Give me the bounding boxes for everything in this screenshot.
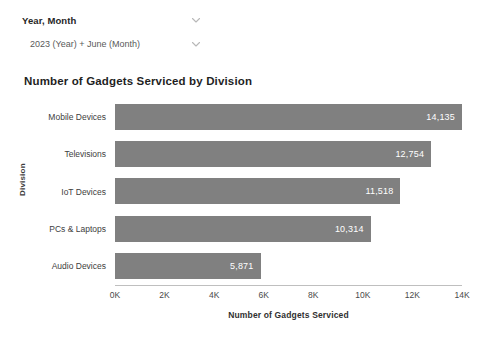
- x-axis-line: [115, 285, 462, 286]
- x-axis-tick-label: 14K: [454, 290, 469, 300]
- bar-row: 10,314: [115, 210, 462, 247]
- bar-series: 14,13512,75411,51810,3145,871: [115, 98, 462, 285]
- x-axis-tick-label: 8K: [308, 290, 318, 300]
- filter-panel: Year, Month 2023 (Year) + June (Month): [22, 8, 202, 56]
- y-axis-category-label: IoT Devices: [30, 173, 112, 210]
- filter-selected-period-value: 2023 (Year) + June (Month): [30, 39, 140, 49]
- y-axis-category-label: Audio Devices: [30, 248, 112, 285]
- y-axis-category-labels: Mobile DevicesTelevisionsIoT DevicesPCs …: [30, 98, 112, 285]
- chart-title: Number of Gadgets Serviced by Division: [24, 75, 252, 87]
- x-axis-title: Number of Gadgets Serviced: [115, 310, 462, 320]
- bar-row: 12,754: [115, 135, 462, 172]
- x-axis-tick-labels: 0K2K4K6K8K10K12K14K: [115, 290, 462, 304]
- bar-value-label: 10,314: [335, 224, 371, 234]
- bar-row: 14,135: [115, 98, 462, 135]
- x-axis-tick-label: 6K: [259, 290, 269, 300]
- bar[interactable]: 12,754: [115, 141, 431, 167]
- bar-chart-card: Number of Gadgets Serviced by Division D…: [0, 68, 491, 347]
- y-axis-category-label: Televisions: [30, 135, 112, 172]
- bar-value-label: 14,135: [426, 112, 462, 122]
- bar-value-label: 11,518: [365, 186, 400, 196]
- bar[interactable]: 5,871: [115, 253, 261, 279]
- chart-plot-area: Division Mobile DevicesTelevisionsIoT De…: [0, 98, 491, 347]
- x-axis-tick-label: 2K: [159, 290, 169, 300]
- x-axis-tick-label: 12K: [405, 290, 420, 300]
- y-axis-title: Division: [18, 163, 27, 196]
- chevron-down-icon[interactable]: [190, 14, 202, 26]
- x-axis-tick-label: 4K: [209, 290, 219, 300]
- bar[interactable]: 11,518: [115, 178, 400, 204]
- y-axis-category-label: Mobile Devices: [30, 98, 112, 135]
- bar-row: 11,518: [115, 173, 462, 210]
- filter-year-month-dropdown[interactable]: Year, Month: [22, 8, 202, 32]
- bar-row: 5,871: [115, 248, 462, 285]
- bar-value-label: 12,754: [395, 149, 431, 159]
- y-axis-category-label: PCs & Laptops: [30, 210, 112, 247]
- bar[interactable]: 10,314: [115, 216, 371, 242]
- chevron-down-icon[interactable]: [190, 38, 202, 50]
- bar[interactable]: 14,135: [115, 104, 462, 130]
- filter-year-month-label: Year, Month: [22, 15, 76, 26]
- x-axis-tick-label: 0K: [110, 290, 120, 300]
- x-axis-tick-label: 10K: [355, 290, 370, 300]
- filter-selected-period-dropdown[interactable]: 2023 (Year) + June (Month): [22, 32, 202, 56]
- bar-value-label: 5,871: [230, 261, 261, 271]
